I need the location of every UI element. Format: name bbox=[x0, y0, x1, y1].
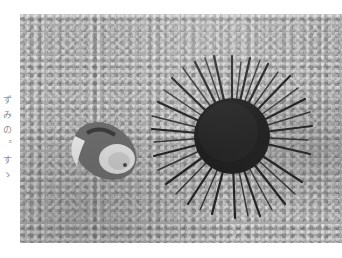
margin-caption: ずみの。すゝ bbox=[1, 95, 13, 210]
seabed-photo bbox=[20, 14, 342, 243]
sea-urchin bbox=[150, 54, 315, 219]
shell bbox=[65, 111, 145, 186]
